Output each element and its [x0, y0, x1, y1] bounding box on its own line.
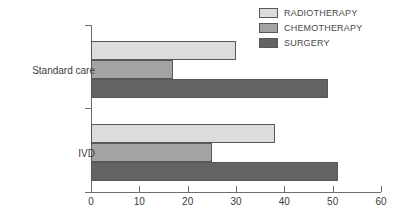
category-label: IVD — [78, 147, 95, 158]
bar-chemotherapy-standard-care — [91, 60, 173, 79]
y-axis-tick — [85, 192, 91, 193]
legend-swatch-chemotherapy — [259, 23, 278, 33]
x-axis-tick — [91, 186, 92, 192]
x-axis-tick — [236, 186, 237, 192]
y-axis-tick — [85, 25, 91, 26]
legend-item-chemotherapy: CHEMOTHERAPY — [259, 22, 362, 33]
x-axis-tick — [139, 186, 140, 192]
legend-swatch-radiotherapy — [259, 8, 278, 18]
bar-surgery-ivd — [91, 162, 338, 181]
x-axis-tick — [333, 186, 334, 192]
x-axis-tick — [188, 186, 189, 192]
x-axis-tick-label: 40 — [279, 196, 290, 207]
x-axis-tick — [381, 186, 382, 192]
x-axis-tick — [284, 186, 285, 192]
bar-chart-figure: RADIOTHERAPY CHEMOTHERAPY SURGERY 010203… — [0, 0, 394, 218]
bar-chemotherapy-ivd — [91, 143, 212, 162]
legend-label-radiotherapy: RADIOTHERAPY — [284, 8, 357, 18]
bar-surgery-standard-care — [91, 79, 328, 98]
x-axis-tick-label: 50 — [327, 196, 338, 207]
category-label: Standard care — [32, 64, 95, 75]
chart-legend: RADIOTHERAPY CHEMOTHERAPY SURGERY — [259, 7, 362, 48]
x-axis-tick-label: 30 — [230, 196, 241, 207]
x-axis-tick-label: 60 — [375, 196, 386, 207]
legend-item-surgery: SURGERY — [259, 37, 362, 48]
legend-item-radiotherapy: RADIOTHERAPY — [259, 7, 362, 18]
bar-radiotherapy-standard-care — [91, 41, 236, 60]
x-axis-tick-label: 0 — [88, 196, 94, 207]
legend-label-chemotherapy: CHEMOTHERAPY — [284, 23, 362, 33]
legend-label-surgery: SURGERY — [284, 38, 330, 48]
x-axis-tick-label: 20 — [182, 196, 193, 207]
x-axis-tick-label: 10 — [134, 196, 145, 207]
y-axis-tick — [85, 108, 91, 109]
x-axis-line — [91, 192, 381, 193]
legend-swatch-surgery — [259, 38, 278, 48]
bar-radiotherapy-ivd — [91, 124, 275, 143]
